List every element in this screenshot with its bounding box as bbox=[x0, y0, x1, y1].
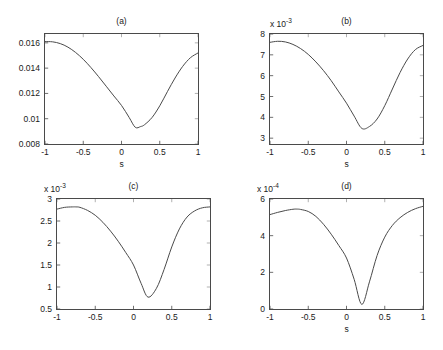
subplot-c-curve bbox=[57, 199, 210, 309]
subplot-d-xtick: 0.5 bbox=[379, 312, 391, 322]
subplot-a-ytick: 0.012 bbox=[0, 88, 40, 98]
subplot-c-xtick: -0.5 bbox=[88, 312, 103, 322]
subplot-a-title: (a) bbox=[44, 16, 199, 26]
subplot-d-xlabel: s bbox=[344, 324, 348, 334]
subplot-a-ytick: 0.016 bbox=[0, 38, 40, 48]
subplot-c-xtick: 1 bbox=[208, 312, 213, 322]
subplot-d-ytick: 4 bbox=[213, 231, 265, 241]
subplot-a-xlabel: s bbox=[119, 159, 123, 169]
subplot-b-xtick: -1 bbox=[266, 147, 274, 157]
subplot-b-xtick: 0 bbox=[344, 147, 349, 157]
subplot-c-axes bbox=[56, 198, 211, 310]
subplot-b-ytick: 3 bbox=[213, 133, 265, 143]
subplot-b-xlabel: s bbox=[344, 159, 348, 169]
subplot-a-xtick: 0.5 bbox=[154, 147, 166, 157]
subplot-a-ytick: 0.01 bbox=[0, 114, 40, 124]
subplot-c-ytick: 3 bbox=[0, 194, 52, 204]
subplot-d-axes bbox=[269, 198, 424, 310]
subplot-b-xtick: 0.5 bbox=[379, 147, 391, 157]
subplot-c-ytick: 2.5 bbox=[0, 216, 52, 226]
subplot-c-xtick: 0.5 bbox=[166, 312, 178, 322]
subplot-a-xtick: 0 bbox=[119, 147, 124, 157]
subplot-c-ytick: 0.5 bbox=[0, 304, 52, 314]
cropped-header-text bbox=[0, 0, 443, 7]
subplot-d-xtick: 0 bbox=[344, 312, 349, 322]
subplot-d-xtick: 1 bbox=[421, 312, 426, 322]
subplot-d-curve bbox=[270, 199, 423, 309]
subplot-d-ytick: 0 bbox=[213, 304, 265, 314]
subplot-a-axes bbox=[44, 33, 199, 145]
subplot-a-xtick: -0.5 bbox=[76, 147, 91, 157]
subplot-b-xtick: -0.5 bbox=[301, 147, 316, 157]
subplot-d-ytick: 2 bbox=[213, 267, 265, 277]
subplot-d-xtick: -1 bbox=[266, 312, 274, 322]
subplot-b-axes bbox=[269, 33, 424, 145]
subplot-a-xtick: 1 bbox=[196, 147, 201, 157]
subplot-a-xtick: -1 bbox=[41, 147, 49, 157]
subplot-a-curve bbox=[45, 34, 198, 144]
subplot-b-ytick: 8 bbox=[213, 29, 265, 39]
subplot-b-ytick: 4 bbox=[213, 112, 265, 122]
subplot-b-title: (b) bbox=[269, 16, 424, 26]
subplot-c-ytick: 1 bbox=[0, 282, 52, 292]
subplot-b-xtick: 1 bbox=[421, 147, 426, 157]
subplot-b-ytick: 7 bbox=[213, 50, 265, 60]
subplot-d-title: (d) bbox=[269, 181, 424, 191]
subplot-a-ytick: 0.014 bbox=[0, 63, 40, 73]
subplot-d-ytick: 6 bbox=[213, 194, 265, 204]
subplot-c-ytick: 2 bbox=[0, 238, 52, 248]
subplot-d-xtick: -0.5 bbox=[301, 312, 316, 322]
subplot-c-title: (c) bbox=[56, 181, 211, 191]
subplot-c-xtick: -1 bbox=[53, 312, 61, 322]
subplot-b-ytick: 6 bbox=[213, 71, 265, 81]
figure-canvas: (a) x 10-3 (b) x 10-3 (c) x 10-4 (d) 0.0… bbox=[0, 0, 443, 350]
subplot-c-xtick: 0 bbox=[131, 312, 136, 322]
subplot-a-ytick: 0.008 bbox=[0, 139, 40, 149]
subplot-c-ytick: 1.5 bbox=[0, 260, 52, 270]
subplot-b-ytick: 5 bbox=[213, 92, 265, 102]
subplot-b-curve bbox=[270, 34, 423, 144]
